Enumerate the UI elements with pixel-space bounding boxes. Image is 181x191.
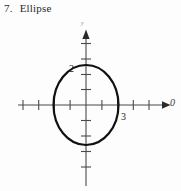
problem-header: 7. Ellipse	[4, 2, 52, 14]
coordinate-plane-svg	[0, 14, 181, 191]
figure-page: 7. Ellipse	[0, 0, 181, 191]
y-axis-label: y	[81, 20, 84, 26]
problem-title: Ellipse	[20, 2, 52, 14]
problem-number: 7.	[4, 2, 13, 14]
x-intercept-label: 3	[121, 111, 126, 122]
ellipse-figure: y 0 2 3	[0, 14, 181, 191]
y-intercept-label: 2	[69, 63, 74, 74]
y-axis-arrow-icon	[82, 30, 89, 40]
x-axis-label: 0	[170, 97, 175, 108]
